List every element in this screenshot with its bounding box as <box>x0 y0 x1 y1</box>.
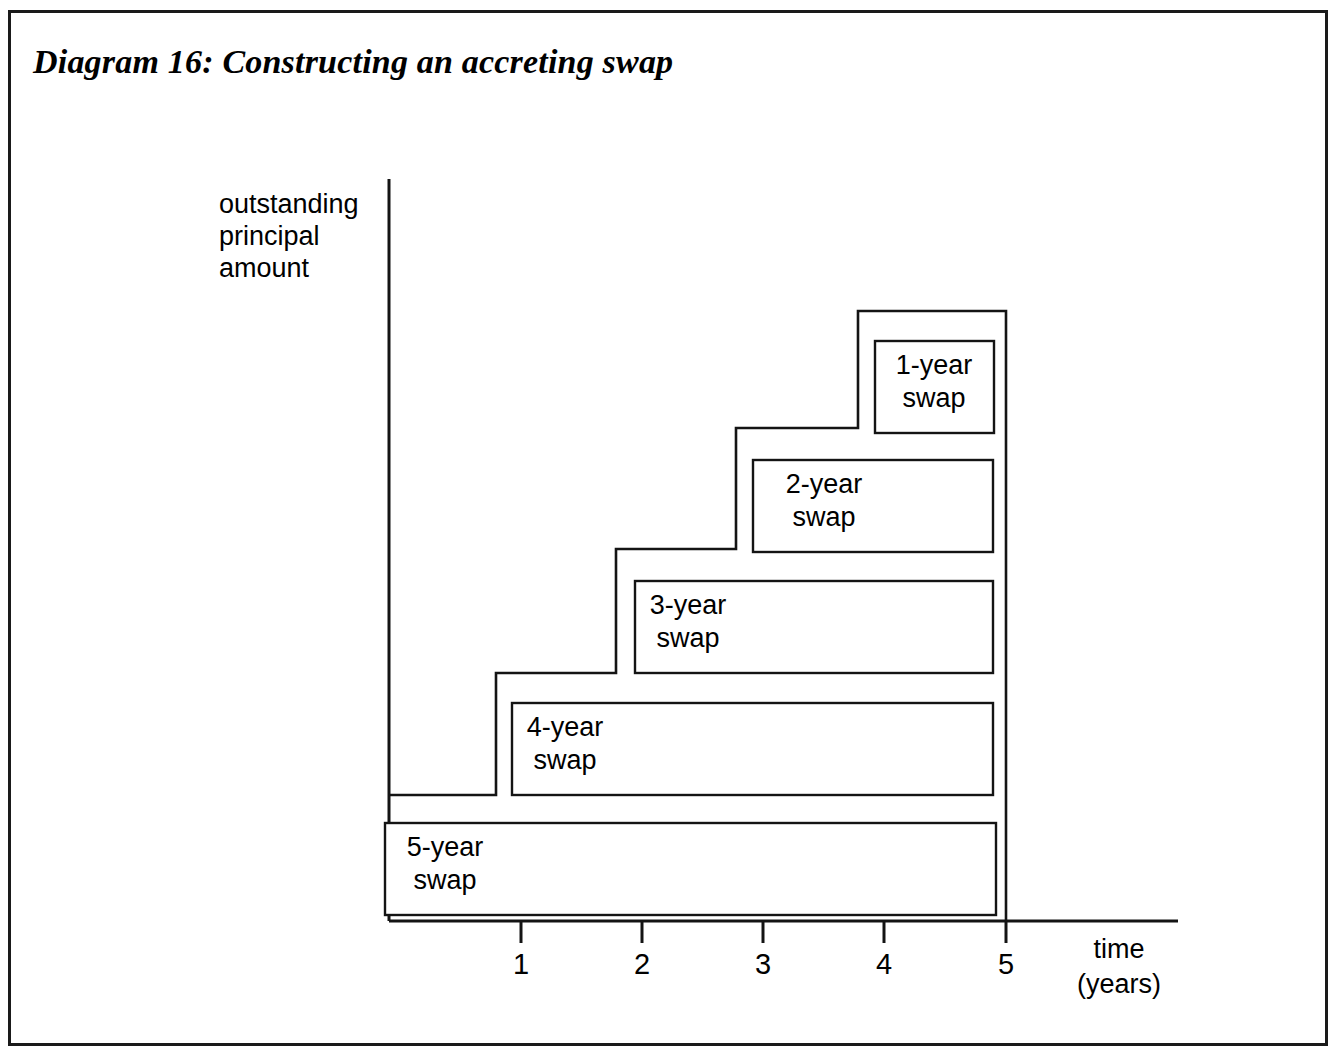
y-axis-label-line-1: outstanding <box>219 189 359 219</box>
swap-label-2-year-line-1: 2-year <box>786 469 863 499</box>
swap-label-2-year-line-2: swap <box>792 502 855 532</box>
diagram-frame: Diagram 16: Constructing an accreting sw… <box>8 10 1328 1046</box>
swap-label-3-year-line-1: 3-year <box>650 590 727 620</box>
swap-label-4-year-line-2: swap <box>533 745 596 775</box>
y-axis-label-line-2: principal <box>219 221 320 251</box>
x-tick-label-2: 2 <box>634 948 650 980</box>
x-axis-label-line-2: (years) <box>1077 969 1161 999</box>
swap-label-1-year-line-2: swap <box>902 383 965 413</box>
x-tick-label-4: 4 <box>876 948 892 980</box>
accreting-swap-diagram: 1 2 3 4 5 outstanding principal amount t… <box>11 13 1331 1049</box>
swap-label-1-year-line-1: 1-year <box>896 350 973 380</box>
x-tick-label-5: 5 <box>998 948 1014 980</box>
x-axis-label-line-1: time <box>1093 934 1144 964</box>
swap-label-5-year-line-1: 5-year <box>407 832 484 862</box>
x-tick-label-3: 3 <box>755 948 771 980</box>
swap-label-4-year-line-1: 4-year <box>527 712 604 742</box>
x-tick-label-1: 1 <box>513 948 529 980</box>
y-axis-label-line-3: amount <box>219 253 310 283</box>
swap-label-3-year-line-2: swap <box>656 623 719 653</box>
swap-label-5-year-line-2: swap <box>413 865 476 895</box>
